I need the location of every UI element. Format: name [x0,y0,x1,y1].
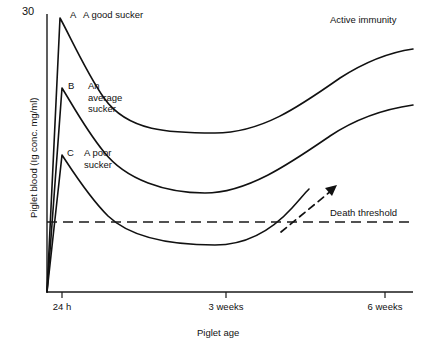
curve-b-average-sucker [47,88,413,292]
death-threshold-annotation: Death threshold [330,207,397,219]
series-key-a-label: A good sucker [83,9,143,21]
y-axis-title: Piglet blood (Ig conc. mg/ml) [28,63,40,253]
x-axis-title: Piglet age [197,327,239,339]
y-axis-max-label: 30 [22,6,34,18]
series-key-b-label: An average sucker [81,80,122,115]
curve-c-poor-sucker [47,155,309,292]
series-key-b-letter: B [68,80,81,92]
active-immunity-annotation: Active immunity [330,14,397,26]
series-key-a: A A good sucker [70,9,143,21]
series-key-c-letter: C [67,147,80,159]
x-tick-label-3weeks: 3 weeks [209,301,244,312]
x-tick-label-6weeks: 6 weeks [368,301,403,312]
series-key-b: B An average sucker [68,80,122,115]
series-key-c: C A poor sucker [67,147,112,170]
series-key-a-letter: A [70,9,83,21]
chart-plot-area [0,0,428,345]
immunity-decay-chart: 30 Piglet blood (Ig conc. mg/ml) Piglet … [0,0,428,345]
x-tick-label-24h: 24 h [53,301,72,312]
series-key-c-label: A poor sucker [80,147,112,170]
